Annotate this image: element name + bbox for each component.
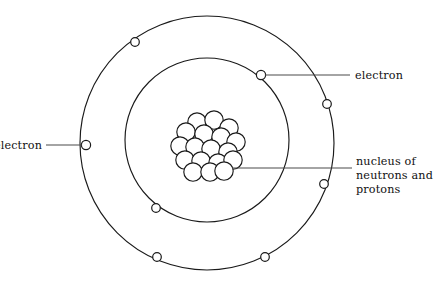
- electron-marker-outer: [320, 180, 329, 189]
- atom-diagram-canvas: electron electron nucleus of neutrons an…: [0, 0, 447, 285]
- electron-right-label: electron: [355, 69, 403, 82]
- nucleus-label-line-3: protons: [356, 183, 401, 196]
- electron-marker-inner: [256, 70, 265, 79]
- electron-marker-outer: [81, 140, 90, 149]
- atom-diagram: electron electron nucleus of neutrons an…: [0, 0, 447, 285]
- nucleus-label-line-2: neutrons and: [356, 169, 433, 182]
- electron-marker-inner: [152, 204, 161, 213]
- electron-marker-outer: [153, 253, 162, 262]
- nucleon-circle: [215, 162, 233, 180]
- nucleus-cluster: [171, 111, 245, 181]
- nucleon-circle: [184, 163, 202, 181]
- nucleus-label-line-1: nucleus of: [356, 155, 416, 168]
- electron-marker-outer: [131, 38, 140, 47]
- electron-marker-outer: [323, 100, 332, 109]
- electron-left-label: electron: [0, 139, 42, 152]
- electron-marker-outer: [261, 253, 270, 262]
